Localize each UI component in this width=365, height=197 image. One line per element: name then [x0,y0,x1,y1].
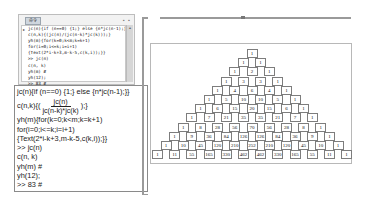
triangle-cell: 56 [229,123,240,132]
triangle-cell: 3 [238,77,249,86]
triangle-cell: 28 [212,123,223,132]
frame-bracket [142,17,148,195]
triangle-cell: 11 [169,150,180,159]
triangle-cell: 210 [264,141,275,150]
triangle-cell: 5 [221,95,232,104]
triangle-cell: 3 [255,77,266,86]
triangle-cell: 10 [315,141,326,150]
triangle-cell: 9 [307,132,318,141]
triangle-cell: 1 [161,141,172,150]
triangle-cell: 56 [264,123,275,132]
triangle-cell: 28 [281,123,292,132]
triangle-cell: 4 [229,86,240,95]
triangle-cell: 1 [341,150,352,159]
triangle-cell: 10 [255,95,266,104]
triangle-cell: 36 [290,132,301,141]
triangle-cell: 1 [238,58,249,67]
console-editor[interactable]: ▸ jc(n){if (n==0) {1;} else {n*jc(n-1);}… [21,25,126,82]
triangle-cell: 6 [281,104,292,113]
triangle-cell: 120 [281,141,292,150]
code-line-for: for(i=0;i<=k;i=i+1) [17,125,145,134]
triangle-cell: 45 [195,141,206,150]
triangle-cell: 36 [204,132,215,141]
triangle-cell: 1 [186,113,197,122]
pascal-triangle-output: 1111211331146411510105116152015611721353… [150,43,352,164]
triangle-cell: 210 [229,141,240,150]
triangle-cell: 8 [298,123,309,132]
scroll-up-icon[interactable]: ▴ [127,25,133,30]
triangle-cell: 126 [255,132,266,141]
triangle-cell: 15 [264,104,275,113]
code-line-cmd: >> 83 # [17,180,145,189]
triangle-cell: 1 [212,86,223,95]
triangle-cell: 7 [290,113,301,122]
triangle-cell: 1 [152,150,163,159]
triangle-cell: 1 [178,123,189,132]
code-line-jc: jc(n){if (n==0) {1;} else {n*jc(n-1);}} [17,87,145,96]
triangle-cell: 126 [238,132,249,141]
console-window: 命令 ▪ ▪ ▸ jc(n){if (n==0) {1;} else {n*jc… [18,14,135,85]
triangle-cell: 1 [169,132,180,141]
triangle-cell: 45 [298,141,309,150]
triangle-cell: 1 [281,86,292,95]
code-line-cmd: >> jc(n) [17,143,145,152]
triangle-cell: 20 [247,104,258,113]
triangle-cell: 2 [247,67,258,76]
triangle-cell: 1 [264,67,275,76]
triangle-cell: 10 [178,141,189,150]
triangle-cell: 70 [247,123,258,132]
triangle-cell: 1 [229,67,240,76]
triangle-cell: 21 [272,113,283,122]
triangle-cell: 1 [324,132,335,141]
triangle-cell: 1 [255,58,266,67]
slider-knob[interactable] [241,16,245,19]
triangle-cell: 15 [229,104,240,113]
triangle-cell: 11 [324,150,335,159]
line-marker-icon: ▸ [23,27,25,32]
console-scrollbar[interactable]: ▴ [126,25,133,82]
triangle-cell: 6 [247,86,258,95]
code-view: jc(n){if (n==0) {1;} else {n*jc(n-1);}} … [14,85,148,192]
triangle-cell: 165 [204,150,215,159]
console-tab[interactable]: 命令 [25,17,41,25]
triangle-cell: 35 [238,113,249,122]
window-controls[interactable]: ▪ ▪ [123,17,131,23]
triangle-cell: 1 [221,77,232,86]
triangle-cell: 1 [307,113,318,122]
triangle-cell: 330 [272,150,283,159]
triangle-cell: 21 [221,113,232,122]
code-line-yh: yh(m){for(k=0;k<m;k=k+1) [17,115,145,124]
triangle-cell: 10 [238,95,249,104]
triangle-cell: 7 [204,113,215,122]
triangle-cell: 5 [272,95,283,104]
fraction-denominator: jc(n-k)*jc(k) [42,107,78,115]
code-line-cmd: yh(12); [17,171,145,180]
code-line-text: {Text(2*i-k+3,m-k-5,c(k,i));}} [17,134,145,143]
horizontal-slider[interactable] [160,17,351,19]
triangle-cell: 330 [221,150,232,159]
triangle-cell: 84 [221,132,232,141]
triangle-cell: 35 [255,113,266,122]
triangle-cell: 1 [204,95,215,104]
triangle-cell: 120 [212,141,223,150]
triangle-cell: 462 [255,150,266,159]
triangle-cell: 4 [264,86,275,95]
triangle-cell: 84 [272,132,283,141]
triangle-cell: 252 [247,141,258,150]
code-line-cmd: yh(m) # [17,162,145,171]
triangle-cell: 462 [238,150,249,159]
triangle-cell: 1 [272,77,283,86]
code-line-c: c(n,k){(jc(n)jc(n-k)*jc(k));} [17,96,145,115]
triangle-cell: 1 [195,104,206,113]
triangle-cell: 1 [333,141,344,150]
triangle-cell: 9 [186,132,197,141]
code-c-prefix: c(n,k){( [17,101,40,110]
code-line-cmd: c(n, k) [17,152,145,161]
code-c-suffix: );} [81,101,88,110]
fraction: jc(n)jc(n-k)*jc(k) [42,98,78,115]
triangle-cell: 1 [290,95,301,104]
triangle-cell: 1 [247,49,258,58]
triangle-cell: 1 [315,123,326,132]
triangle-cell: 165 [290,150,301,159]
triangle-cell: 6 [212,104,223,113]
